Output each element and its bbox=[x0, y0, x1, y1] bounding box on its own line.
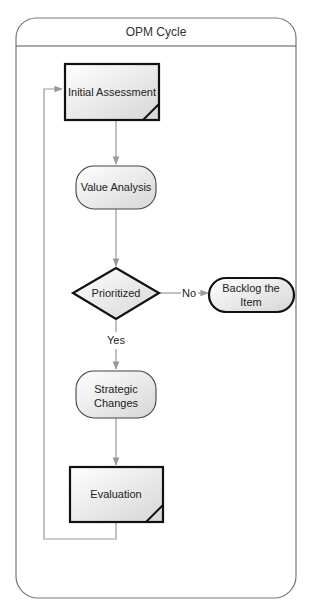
node-initial-assessment-label: Initial Assessment bbox=[68, 86, 156, 98]
node-strategic-label-line2: Changes bbox=[94, 397, 139, 409]
node-initial-assessment[interactable]: Initial Assessment bbox=[65, 64, 159, 120]
node-backlog-item[interactable]: Backlog the Item bbox=[209, 278, 294, 312]
node-evaluation[interactable]: Evaluation bbox=[70, 467, 163, 522]
node-value-analysis-label: Value Analysis bbox=[81, 181, 152, 193]
node-value-analysis[interactable]: Value Analysis bbox=[76, 166, 156, 209]
diagram-title: OPM Cycle bbox=[126, 25, 187, 39]
node-backlog-label-line2: Item bbox=[240, 296, 261, 308]
node-backlog-label-line1: Backlog the bbox=[222, 282, 279, 294]
opm-cycle-diagram: OPM Cycle No Yes Initial Assessment Valu… bbox=[0, 0, 314, 613]
node-strategic-label-line1: Strategic bbox=[94, 383, 138, 395]
edge-label-no: No bbox=[182, 287, 196, 299]
node-strategic-changes[interactable]: Strategic Changes bbox=[76, 371, 156, 418]
node-prioritized-label: Prioritized bbox=[92, 287, 141, 299]
node-evaluation-label: Evaluation bbox=[90, 488, 141, 500]
edge-label-yes: Yes bbox=[107, 334, 125, 346]
